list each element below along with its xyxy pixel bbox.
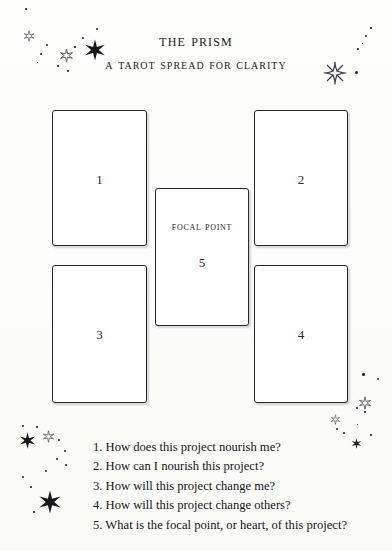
card-number: 1 bbox=[53, 172, 146, 188]
card-number: 3 bbox=[53, 327, 146, 343]
legend-line-5: 5. What is the focal point, or heart, of… bbox=[93, 516, 389, 535]
spread-legend: 1. How does this project nourish me? 2. … bbox=[93, 438, 389, 535]
legend-line-2: 2. How can I nourish this project? bbox=[93, 457, 389, 476]
card-number: 2 bbox=[255, 172, 347, 188]
tarot-card-focal-point[interactable]: Focal Point 5 bbox=[155, 188, 249, 326]
page-header: The Prism A Tarot Spread for Clarity bbox=[0, 32, 392, 73]
legend-line-1: 1. How does this project nourish me? bbox=[93, 438, 389, 457]
page-subtitle: A Tarot Spread for Clarity bbox=[0, 57, 392, 73]
tarot-card-position-4[interactable]: 4 bbox=[254, 265, 348, 403]
legend-line-4: 4. How will this project change others? bbox=[93, 496, 389, 515]
tarot-card-position-3[interactable]: 3 bbox=[52, 265, 147, 403]
legend-line-3: 3. How will this project change me? bbox=[93, 477, 389, 496]
tarot-card-position-1[interactable]: 1 bbox=[52, 110, 147, 246]
page-title: The Prism bbox=[0, 32, 392, 50]
tarot-card-position-2[interactable]: 2 bbox=[254, 110, 348, 246]
focal-point-label: Focal Point bbox=[156, 220, 248, 232]
card-number: 4 bbox=[255, 327, 347, 343]
card-number: 5 bbox=[156, 255, 248, 271]
